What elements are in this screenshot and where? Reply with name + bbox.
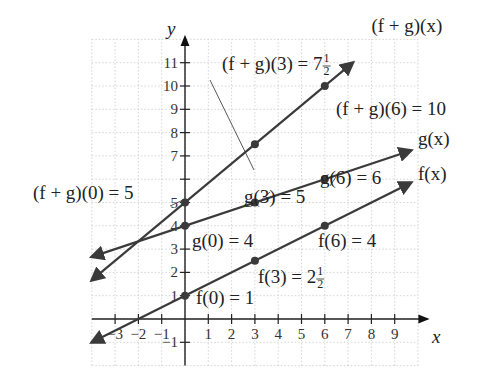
annotation-label: (f + g)(6) = 10	[336, 98, 446, 120]
x-tick-label: 9	[391, 326, 399, 342]
x-tick-label: 5	[298, 326, 306, 342]
annotation-label: g(6) = 6	[320, 167, 381, 189]
fraction-numerator: 1	[324, 51, 330, 65]
annotation-label: f(0) = 1	[196, 287, 254, 309]
data-point	[181, 222, 189, 230]
data-point	[181, 199, 189, 207]
chart: x y −3−2−1123456789−1123457891011 f(x)g(…	[0, 0, 496, 388]
annotations: (f + g)(0) = 5(f + g)(3) = 712(f + g)(6)…	[33, 51, 446, 309]
data-point	[251, 140, 259, 148]
series-label: g(x)	[418, 128, 450, 150]
x-tick-label: 3	[251, 326, 259, 342]
data-point	[181, 292, 189, 300]
x-tick-label: −2	[130, 326, 146, 342]
x-tick-label: 6	[321, 326, 329, 342]
y-tick-label: 10	[163, 78, 178, 94]
x-tick-label: 2	[228, 326, 236, 342]
data-point	[321, 222, 329, 230]
annotation-label: g(3) = 5	[244, 186, 305, 208]
fraction-numerator: 1	[317, 264, 323, 278]
y-tick-label: 2	[171, 264, 179, 280]
data-point	[321, 82, 329, 90]
x-axis-label: x	[431, 326, 441, 347]
data-point	[251, 257, 259, 265]
x-tick-label: 4	[274, 326, 282, 342]
y-tick-label: 7	[171, 148, 179, 164]
annotation-label: f(3) = 2	[258, 266, 316, 288]
y-tick-label: 4	[171, 218, 179, 234]
annotation-label: (f + g)(0) = 5	[33, 182, 134, 204]
y-tick-label: 3	[171, 241, 179, 257]
y-tick-label: 11	[164, 55, 178, 71]
x-tick-label: 8	[368, 326, 376, 342]
y-tick-label: 8	[171, 125, 179, 141]
annotation-label: f(6) = 4	[318, 230, 377, 252]
y-tick-label: 9	[171, 101, 179, 117]
y-axis-label: y	[165, 18, 176, 39]
annotation-label: (f + g)(3) = 7	[222, 53, 323, 75]
leader-line	[210, 80, 254, 170]
y-tick-label: −1	[162, 334, 178, 350]
series-label: (f + g)(x)	[371, 15, 442, 37]
x-tick-label: 7	[344, 326, 352, 342]
series-label: f(x)	[418, 163, 446, 185]
x-tick-label: 1	[205, 326, 213, 342]
annotation-label: g(0) = 4	[192, 230, 254, 252]
